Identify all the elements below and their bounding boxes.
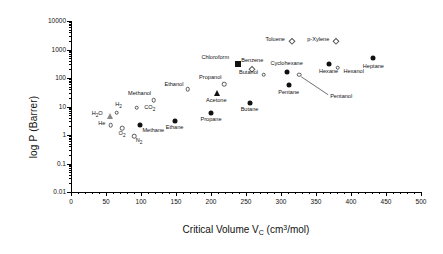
data-point-butanol <box>261 72 266 77</box>
x-axis-minor-tick <box>99 192 100 194</box>
x-axis-minor-tick <box>78 192 79 194</box>
x-axis-minor-tick <box>120 192 121 194</box>
x-axis-minor-tick <box>253 192 254 194</box>
y-axis-tick-label: 1000 <box>52 46 66 53</box>
x-axis-tick-label: 0 <box>69 199 73 206</box>
x-axis-minor-tick <box>302 192 303 194</box>
data-label-pentane: Pentane <box>278 91 299 97</box>
x-axis-tick-label: 250 <box>241 199 252 206</box>
x-axis-tick <box>106 192 107 196</box>
y-axis-tick-label: 10000 <box>48 18 66 25</box>
x-axis-minor-tick <box>344 192 345 194</box>
data-label-toluene: Toluene <box>265 37 285 43</box>
data-label-cyclohexane: Cyclohexane <box>270 61 302 67</box>
x-axis-minor-tick <box>379 192 380 194</box>
permeability-scatter-chart: log P (Barrer) Critical Volume VC (cm3/m… <box>0 0 443 254</box>
data-label-o2: O2 <box>119 132 126 140</box>
x-axis-minor-tick <box>295 192 296 194</box>
x-axis-minor-tick <box>239 192 240 194</box>
x-axis-minor-tick <box>309 192 310 194</box>
x-axis-minor-tick <box>148 192 149 194</box>
data-label-h2o: H2O <box>92 111 103 119</box>
x-axis-minor-tick <box>197 192 198 194</box>
x-axis-minor-tick <box>323 192 324 194</box>
data-point-hexanol <box>335 65 340 70</box>
x-axis-minor-tick <box>155 192 156 194</box>
x-axis-minor-tick <box>260 192 261 194</box>
x-axis-minor-tick <box>204 192 205 194</box>
data-point-propane <box>209 110 214 115</box>
data-point-propanol <box>222 82 227 87</box>
data-label-h2: H2 <box>115 102 122 110</box>
x-axis-minor-tick <box>372 192 373 194</box>
data-point-h2o <box>107 113 113 119</box>
data-label-p-xylene: p-Xylene <box>307 37 329 43</box>
x-axis-minor-tick <box>274 192 275 194</box>
data-label-ethane: Ethane <box>166 126 184 132</box>
x-axis-minor-tick <box>393 192 394 194</box>
x-axis-minor-tick <box>365 192 366 194</box>
data-point-co2 <box>135 106 140 111</box>
x-axis-minor-tick <box>400 192 401 194</box>
x-axis-minor-tick <box>288 192 289 194</box>
x-axis-tick <box>71 192 72 196</box>
x-axis-tick-label: 450 <box>381 199 392 206</box>
data-label-benzene: Benzene <box>241 59 263 65</box>
data-label-acetone: Acetone <box>206 98 227 104</box>
y-axis-tick-label: 0.1 <box>57 160 66 167</box>
x-axis-line: 050100150200250300350400450500 <box>71 192 421 193</box>
y-axis-tick-label: 10 <box>59 103 66 110</box>
x-axis-tick <box>351 192 352 196</box>
data-point-pentanol <box>297 72 302 77</box>
x-axis-tick-label: 350 <box>311 199 322 206</box>
x-axis-tick <box>246 192 247 196</box>
x-axis-minor-tick <box>183 192 184 194</box>
x-axis-minor-tick <box>162 192 163 194</box>
x-axis-minor-tick <box>218 192 219 194</box>
x-axis-minor-tick <box>337 192 338 194</box>
x-axis-tick-label: 50 <box>102 199 109 206</box>
data-label-hexane: Hexane <box>319 70 338 76</box>
data-label-hexanol: Hexanol <box>343 69 364 75</box>
x-axis-minor-tick <box>134 192 135 194</box>
x-axis-tick-label: 400 <box>346 199 357 206</box>
data-point-ethane <box>172 119 177 124</box>
x-axis-title: Critical Volume VC (cm3/mol) <box>71 224 421 236</box>
x-axis-minor-tick <box>85 192 86 194</box>
x-axis-minor-tick <box>225 192 226 194</box>
x-axis-tick <box>316 192 317 196</box>
x-axis-tick-label: 500 <box>416 199 427 206</box>
data-point-he <box>109 123 114 128</box>
x-axis-minor-tick <box>92 192 93 194</box>
x-axis-minor-tick <box>190 192 191 194</box>
x-axis-tick-label: 200 <box>206 199 217 206</box>
x-axis-minor-tick <box>169 192 170 194</box>
data-point-acetone <box>214 90 220 96</box>
x-axis-tick-label: 150 <box>171 199 182 206</box>
data-label-n2: N2 <box>136 138 143 146</box>
data-label-butane: Butane <box>241 107 259 113</box>
data-point-p-xylene <box>333 38 339 44</box>
data-point-cyclohexane <box>284 70 289 75</box>
x-axis-minor-tick <box>127 192 128 194</box>
data-label-pentanol: Pentanol <box>330 94 352 100</box>
data-point-butane <box>247 101 252 106</box>
x-axis-tick <box>421 192 422 196</box>
data-label-co2: CO2 <box>144 105 155 113</box>
x-axis-tick <box>176 192 177 196</box>
x-axis-minor-tick <box>232 192 233 194</box>
data-point-h2 <box>114 111 119 116</box>
data-label-he: He <box>98 121 105 127</box>
data-point-methanol <box>151 98 156 103</box>
x-axis-minor-tick <box>358 192 359 194</box>
x-axis-tick <box>386 192 387 196</box>
data-label-propanol: Propanol <box>199 76 221 82</box>
plot-area: H2OH2HeO2N2CO2MethaneMethanolEthaneEthan… <box>71 21 421 192</box>
data-label-ethanol: Ethanol <box>164 83 183 89</box>
data-point-heptane <box>371 56 376 61</box>
data-label-butanol: Butanol <box>239 70 258 76</box>
x-axis-tick <box>141 192 142 196</box>
data-label-chloroform: Chloroform <box>201 56 229 62</box>
x-axis-tick <box>211 192 212 196</box>
x-axis-minor-tick <box>113 192 114 194</box>
